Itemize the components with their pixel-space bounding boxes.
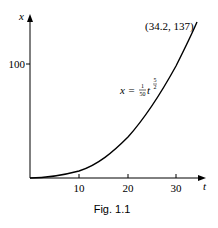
exponent-numerator: 5 [154,77,157,83]
figure-caption: Fig. 1.1 [94,203,131,215]
curve-smooth [30,22,197,178]
equation-variable: t [147,84,151,96]
y-tick-label-100: 100 [9,58,26,70]
equation-label: x = 1 50 t 5 2 [119,77,157,97]
x-axis-label: t [203,180,207,192]
y-axis-arrow-icon [27,14,33,22]
equation-numerator: 1 [141,83,144,89]
equation-denominator: 50 [140,91,146,97]
y-axis-label: x [18,10,24,22]
chart: x t 10 20 30 100 (34.2, 137) x = 1 50 t … [0,0,218,228]
x-tick-label-20: 20 [123,182,135,194]
equation-lhs: x = [119,84,135,96]
endpoint-annotation: (34.2, 137) [145,20,194,33]
x-tick-label-30: 30 [171,182,183,194]
exponent-denominator: 2 [154,84,157,90]
x-tick-label-10: 10 [74,182,86,194]
